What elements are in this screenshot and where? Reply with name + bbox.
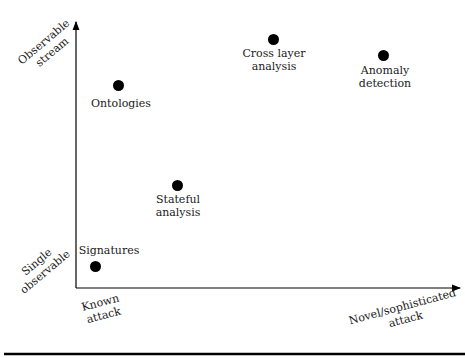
point-ontologies [113, 80, 124, 91]
point-signatures [90, 261, 101, 272]
point-anomaly [378, 50, 389, 61]
point-cross-layer-label: Cross layer analysis [238, 47, 310, 73]
point-cross-layer [268, 34, 279, 45]
point-stateful-label: Stateful analysis [143, 193, 213, 219]
point-ontologies-label: Ontologies [86, 97, 156, 110]
point-signatures-label: Signatures [74, 244, 144, 257]
point-anomaly-label: Anomaly detection [350, 64, 420, 90]
point-stateful [172, 180, 183, 191]
